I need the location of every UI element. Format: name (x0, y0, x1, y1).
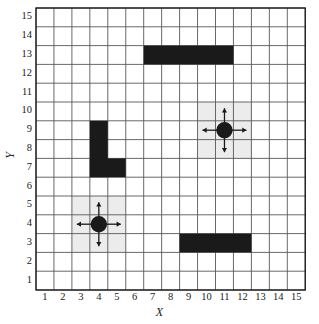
x-tick-1: 1 (36, 291, 54, 302)
y-tick-4: 4 (14, 217, 32, 228)
x-tick-13: 13 (251, 291, 269, 302)
y-tick-14: 14 (14, 29, 32, 40)
x-tick-8: 8 (162, 291, 180, 302)
y-tick-5: 5 (14, 198, 32, 209)
y-tick-10: 10 (14, 104, 32, 115)
x-tick-6: 6 (126, 291, 144, 302)
x-tick-5: 5 (108, 291, 126, 302)
y-tick-15: 15 (14, 10, 32, 21)
x-tick-10: 10 (198, 291, 216, 302)
agent-lower-marker (91, 216, 107, 232)
y-tick-12: 12 (14, 67, 32, 78)
y-tick-11: 11 (14, 86, 32, 97)
y-tick-13: 13 (14, 48, 32, 59)
y-tick-8: 8 (14, 142, 32, 153)
x-axis-label: X (0, 305, 319, 320)
obstacle-bottom-bar (180, 234, 252, 253)
agent-upper-marker (216, 122, 232, 138)
obstacle-top-bar (144, 46, 234, 65)
y-tick-3: 3 (14, 236, 32, 247)
obstacle-l-shape-horizontal (90, 158, 126, 177)
x-tick-3: 3 (72, 291, 90, 302)
x-tick-9: 9 (180, 291, 198, 302)
grid-plot-svg (0, 0, 319, 324)
y-tick-7: 7 (14, 161, 32, 172)
x-tick-11: 11 (215, 291, 233, 302)
y-tick-1: 1 (14, 274, 32, 285)
x-tick-15: 15 (287, 291, 305, 302)
grid-map-figure: X Y 123456789101112131415 12345678910111… (0, 0, 319, 324)
y-tick-9: 9 (14, 123, 32, 134)
y-tick-6: 6 (14, 180, 32, 191)
x-tick-14: 14 (269, 291, 287, 302)
x-tick-2: 2 (54, 291, 72, 302)
x-tick-12: 12 (233, 291, 251, 302)
y-tick-2: 2 (14, 255, 32, 266)
x-tick-4: 4 (90, 291, 108, 302)
x-tick-7: 7 (144, 291, 162, 302)
